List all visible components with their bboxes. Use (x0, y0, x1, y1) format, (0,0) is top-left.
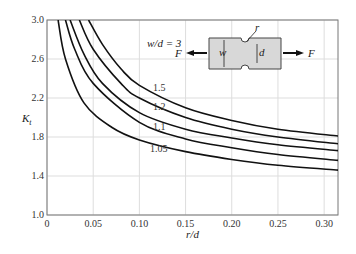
curve-label: 1.05 (150, 143, 168, 154)
y-tick-label: 3.0 (32, 14, 45, 25)
curve-label: 1.5 (153, 82, 166, 93)
force-label-right: F (307, 47, 315, 59)
d-label: d (259, 46, 265, 58)
w-label: w (219, 46, 227, 58)
arrow-head-icon (186, 50, 194, 56)
y-axis-label: Kt (21, 112, 32, 127)
y-tick-label: 1.4 (32, 170, 45, 181)
arrow-head-icon (296, 50, 304, 56)
y-tick-label: 1.8 (32, 131, 45, 142)
series-line (58, 20, 338, 170)
x-tick-label: 0.30 (315, 218, 333, 229)
plot-frame (47, 20, 338, 215)
curve-label: 1.2 (153, 101, 166, 112)
x-tick-label: 0.10 (131, 218, 149, 229)
y-tick-label: 2.6 (32, 53, 45, 64)
y-tick-label: 2.2 (32, 92, 45, 103)
x-tick-label: 0 (45, 218, 50, 229)
curve-label: 1.1 (153, 121, 166, 132)
y-tick-label: 1.0 (32, 209, 45, 220)
x-tick-label: 0.25 (269, 218, 287, 229)
r-label: r (255, 21, 260, 33)
series-line (89, 20, 338, 136)
x-tick-label: 0.05 (84, 218, 102, 229)
x-axis-label: r/d (186, 228, 199, 240)
x-tick-label: 0.20 (223, 218, 241, 229)
chart: 00.050.100.150.200.250.301.01.41.82.22.6… (0, 0, 356, 254)
force-label-left: F (174, 47, 182, 59)
